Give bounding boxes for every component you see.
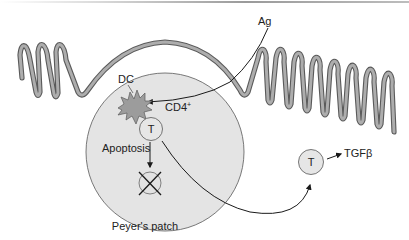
- antigen-label: Ag: [258, 15, 271, 27]
- apoptosis-label: Apoptosis: [102, 142, 151, 154]
- diagram-canvas: Ag DC T CD4+ Apoptosis Peyer's patch T T…: [0, 0, 409, 240]
- cd4-t-cell: T: [140, 118, 163, 141]
- migrated-t-cell: T: [299, 150, 324, 175]
- migrated-t-cell-letter: T: [308, 156, 315, 168]
- dc-label: DC: [118, 73, 134, 85]
- tgf-beta-arrow: [327, 154, 341, 159]
- t-cell-letter: T: [148, 123, 155, 135]
- apoptotic-cell-crossed: [139, 172, 161, 195]
- peyers-patch-label: Peyer's patch: [112, 220, 178, 232]
- tgf-beta-label: TGFβ: [344, 147, 372, 159]
